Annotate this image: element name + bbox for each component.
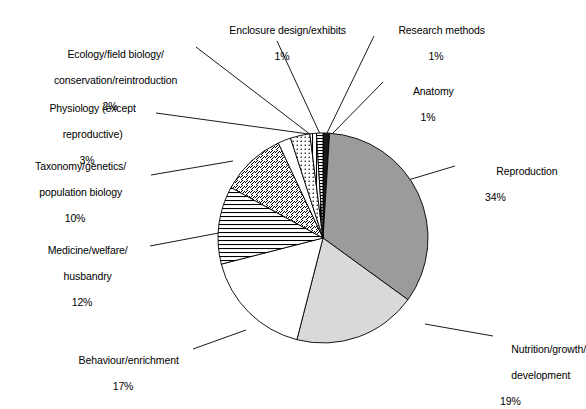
slice-label-physiology: Physiology (except reproductive) 3% <box>22 89 152 193</box>
slice-label-reproduction-text: Reproduction <box>496 165 557 177</box>
slice-label-behaviour-percent: 17% <box>58 380 188 393</box>
slice-label-physiology-percent: 3% <box>22 154 152 167</box>
leader-line-nutrition <box>425 324 493 336</box>
pie-slices <box>218 133 428 343</box>
leader-line-medicine <box>150 232 224 246</box>
leader-line-behaviour <box>193 330 246 349</box>
slice-label-reproduction-percent: 34% <box>485 191 558 204</box>
slice-label-nutrition-text-1: Nutrition/growth/ <box>511 343 586 355</box>
slice-label-taxonomy-percent: 10% <box>10 212 140 225</box>
slice-label-physiology-text-2: reproductive) <box>63 128 123 140</box>
slice-label-enclosure: Enclosure design/exhibits 1% <box>207 11 357 89</box>
slice-label-nutrition: Nutrition/growth/ development 19% <box>500 330 586 409</box>
leader-line-anatomy <box>333 82 383 133</box>
slice-label-physiology-text-1: Physiology (except <box>49 102 135 114</box>
slice-label-anatomy-percent: 1% <box>385 111 471 124</box>
slice-label-research-methods-percent: 1% <box>381 50 491 63</box>
slice-label-medicine-text-2: husbandry <box>64 270 112 282</box>
leader-line-taxonomy <box>151 161 233 175</box>
slice-label-nutrition-text-2: development <box>511 369 570 381</box>
slice-label-ecology-text-1: Ecology/field biology/ <box>67 48 163 60</box>
slice-label-behaviour: Behaviour/enrichment 17% <box>58 341 188 409</box>
slice-label-anatomy: Anatomy 1% <box>385 72 471 150</box>
slice-label-enclosure-text: Enclosure design/exhibits <box>229 24 346 36</box>
slice-label-ecology-text-2: conservation/reintroduction <box>54 74 177 86</box>
slice-label-reproduction: Reproduction 34% <box>485 152 558 230</box>
slice-label-enclosure-percent: 1% <box>207 50 357 63</box>
slice-label-anatomy-text: Anatomy <box>413 85 454 97</box>
slice-label-research-methods-text: Research methods <box>398 24 485 36</box>
slice-label-medicine-percent: 12% <box>22 296 142 309</box>
slice-label-behaviour-text: Behaviour/enrichment <box>79 354 179 366</box>
slice-label-nutrition-percent: 19% <box>500 395 586 408</box>
